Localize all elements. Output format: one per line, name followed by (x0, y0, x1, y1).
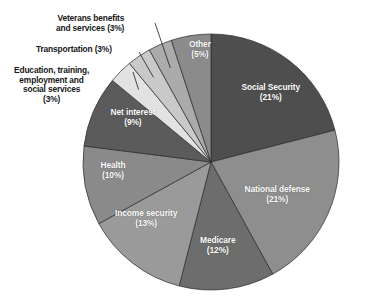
slice-label-net-interest: Net interest (9%) (111, 108, 156, 128)
slice-label-veterans: Veterans benefits and services (3%) (56, 14, 124, 33)
pie-chart-figure: Social Security (21%) National defense (… (0, 0, 378, 299)
slice-label-transportation: Transportation (3%) (36, 45, 112, 55)
slice-label-medicare: Medicare (12%) (200, 236, 236, 256)
slice-label-social-security: Social Security (21%) (242, 83, 301, 103)
slice-label-national-defense: National defense (21%) (245, 185, 310, 205)
slice-label-health: Health (10%) (101, 161, 126, 181)
slice-label-income-security: Income security (13%) (115, 209, 177, 229)
slice-label-education: Education, training, employment and soci… (14, 66, 89, 104)
slice-label-other: Other (5%) (189, 40, 211, 60)
